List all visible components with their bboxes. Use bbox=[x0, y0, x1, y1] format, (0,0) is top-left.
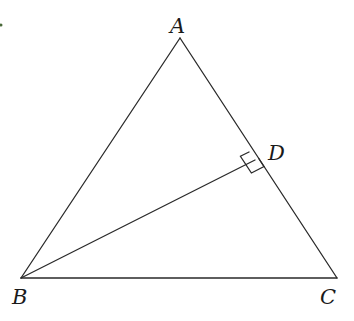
right-angle-mark-upper bbox=[240, 152, 249, 165]
label-b: B bbox=[11, 285, 27, 309]
label-a: A bbox=[168, 14, 185, 38]
segment-bd bbox=[21, 160, 255, 278]
label-c: C bbox=[320, 285, 336, 309]
segment-ac bbox=[180, 38, 337, 278]
triangle-diagram: A D B C bbox=[0, 0, 354, 321]
artifact-dot bbox=[0, 24, 3, 27]
segment-ab bbox=[21, 38, 180, 278]
label-d: D bbox=[267, 141, 285, 165]
